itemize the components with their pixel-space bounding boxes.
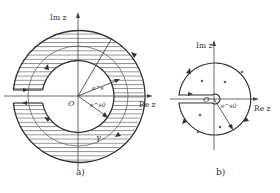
arrowhead-icon <box>102 112 108 118</box>
imag-axis-arrow-icon <box>212 40 216 46</box>
direction-arrow-icon <box>182 118 187 124</box>
pole-dot <box>199 114 202 117</box>
figure-b: Im z Re z O e^s0 <box>170 40 270 150</box>
pole-dot <box>201 80 204 83</box>
axis-re-label-b: Re z <box>254 104 270 113</box>
axis-im-label-a: Im z <box>50 13 66 22</box>
real-axis-arrow-icon <box>147 94 152 98</box>
pole-dot <box>197 131 200 134</box>
axis-im-label-b: Im z <box>196 41 212 50</box>
radius-inner-label: e^s0 <box>90 101 106 108</box>
contour-label: γ <box>96 133 101 142</box>
caption-a: a) <box>76 167 85 177</box>
pole-dot <box>219 126 222 129</box>
pole-dot <box>224 81 227 84</box>
imag-axis-arrow-icon <box>76 12 80 18</box>
direction-arrow-icon <box>186 68 191 74</box>
arrowhead-icon <box>228 124 233 130</box>
caption-b: b) <box>216 167 225 177</box>
radius-outer-label: e^s <box>92 84 104 91</box>
axis-re-label-a: Re z <box>139 100 155 109</box>
origin-label-a: O <box>68 99 75 108</box>
diagram-canvas: Im z Re z O e^s e^s0 γ Im z Re z O e^s0 <box>0 0 280 193</box>
radius-label-b: e^s0 <box>221 102 237 109</box>
pole-dot <box>241 71 244 74</box>
real-axis-arrow-icon <box>253 97 258 101</box>
origin-label-b: O <box>203 95 210 104</box>
figure-a: Im z Re z O e^s e^s0 γ <box>4 12 155 170</box>
